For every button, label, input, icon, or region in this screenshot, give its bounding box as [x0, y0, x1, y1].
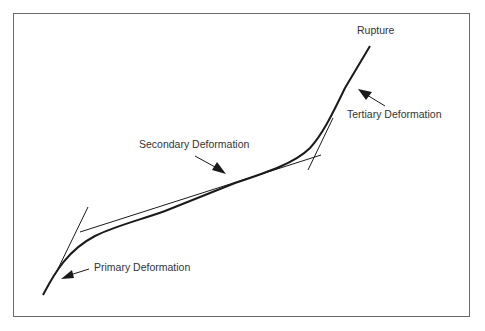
tertiary-arrow-shaft [367, 95, 385, 106]
secondary-arrow-shaft [195, 156, 215, 167]
creep-curve [43, 46, 370, 295]
tertiary-arrowhead [358, 89, 372, 100]
primary-tangent-line [55, 207, 88, 275]
secondary-tangent-line [80, 155, 321, 232]
secondary-deformation-label: Secondary Deformation [139, 138, 249, 150]
creep-curve-plot [0, 0, 485, 331]
secondary-arrowhead [212, 162, 226, 174]
tertiary-deformation-label: Tertiary Deformation [347, 108, 442, 120]
primary-deformation-label: Primary Deformation [94, 261, 190, 273]
primary-arrowhead [61, 270, 74, 279]
rupture-label: Rupture [357, 24, 394, 36]
tertiary-tangent-line [308, 118, 333, 170]
